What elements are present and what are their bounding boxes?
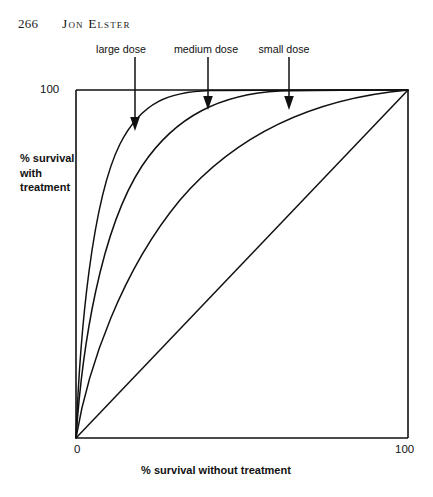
annotation-label-medium-dose: medium dose [174, 43, 238, 57]
x-axis-tick-0: 0 [74, 443, 80, 455]
y-axis-tick-100: 100 [40, 83, 59, 95]
arrow-large-dose [130, 57, 140, 131]
y-axis-title-line-1: % survival [20, 151, 74, 166]
x-axis-title: % survival without treatment [141, 463, 291, 477]
chart-canvas [0, 0, 433, 497]
diagonal-reference-line [76, 90, 408, 438]
arrow-head-medium-dose [203, 96, 213, 110]
book-page: 266 Jon Elster [0, 0, 433, 497]
annotation-arrows [130, 57, 294, 131]
annotation-label-large-dose: large dose [96, 43, 146, 57]
y-axis-title: % survival with treatment [20, 151, 74, 195]
y-axis-title-line-2: with [20, 166, 74, 181]
annotation-label-small-dose: small dose [258, 43, 309, 57]
arrow-medium-dose [203, 57, 213, 110]
survival-curve-figure: large dose medium dose small dose 100 0 … [0, 0, 433, 497]
x-axis-tick-100: 100 [395, 443, 414, 455]
y-axis-title-line-3: treatment [20, 180, 74, 195]
arrow-head-small-dose [284, 96, 294, 110]
arrow-small-dose [284, 57, 294, 110]
